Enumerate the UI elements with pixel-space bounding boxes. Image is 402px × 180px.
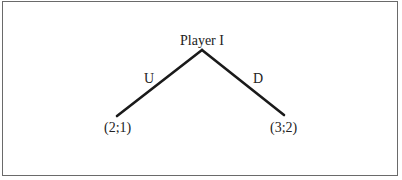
tree-edges <box>0 0 402 180</box>
root-node-label: Player I <box>180 34 224 48</box>
payoff-label-u: (2;1) <box>104 121 131 135</box>
payoff-label-d: (3;2) <box>270 121 297 135</box>
action-label-u: U <box>144 72 154 86</box>
edge-u <box>117 50 202 116</box>
edge-d <box>202 50 284 115</box>
game-tree-diagram: Player I U D (2;1) (3;2) <box>0 0 402 180</box>
action-label-d: D <box>253 72 263 86</box>
